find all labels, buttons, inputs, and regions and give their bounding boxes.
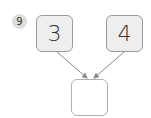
arrow-right-icon [94, 52, 124, 78]
number-box-left: 3 [36, 15, 73, 52]
arrow-left-icon [57, 52, 87, 78]
answer-box[interactable] [71, 79, 108, 116]
problem-number-badge: 9 [12, 14, 27, 29]
number-box-right: 4 [106, 15, 143, 52]
